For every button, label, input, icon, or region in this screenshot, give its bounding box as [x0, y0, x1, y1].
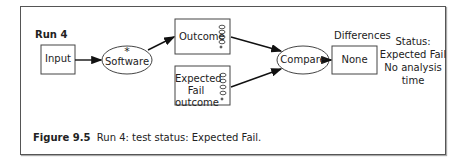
caption-number: Figure 9.5: [33, 132, 90, 143]
outcome-label: Outcome: [179, 31, 225, 43]
status-line-2: Expected Fail: [378, 49, 448, 61]
run-label: Run 4: [35, 29, 67, 41]
expected-label-1: Expected: [175, 73, 217, 85]
status-line-4: time: [378, 75, 448, 87]
compare-label: Compare: [277, 54, 329, 66]
caption-text: Run 4: test status: Expected Fail.: [97, 132, 261, 143]
expected-label-3: outcome: [175, 97, 217, 109]
input-label: Input: [41, 53, 75, 65]
status-line-3: No analysis: [378, 62, 448, 74]
status-line-1: Status:: [378, 36, 448, 48]
none-label: None: [332, 54, 377, 66]
expected-label-2: Fail: [175, 85, 217, 97]
software-label: Software: [102, 56, 152, 68]
figure-caption: Figure 9.5 Run 4: test status: Expected …: [33, 132, 261, 144]
